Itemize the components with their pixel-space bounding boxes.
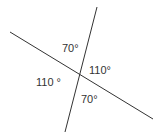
diagram-canvas: 70° 110° 110 ° 70°	[0, 0, 159, 140]
angle-diagram: 70° 110° 110 ° 70°	[0, 0, 159, 140]
line-1	[10, 32, 153, 119]
angle-label-top: 70°	[62, 42, 79, 54]
angle-label-bottom: 70°	[81, 93, 98, 105]
angle-label-right: 110°	[89, 64, 111, 76]
angle-label-left: 110 °	[36, 76, 61, 88]
